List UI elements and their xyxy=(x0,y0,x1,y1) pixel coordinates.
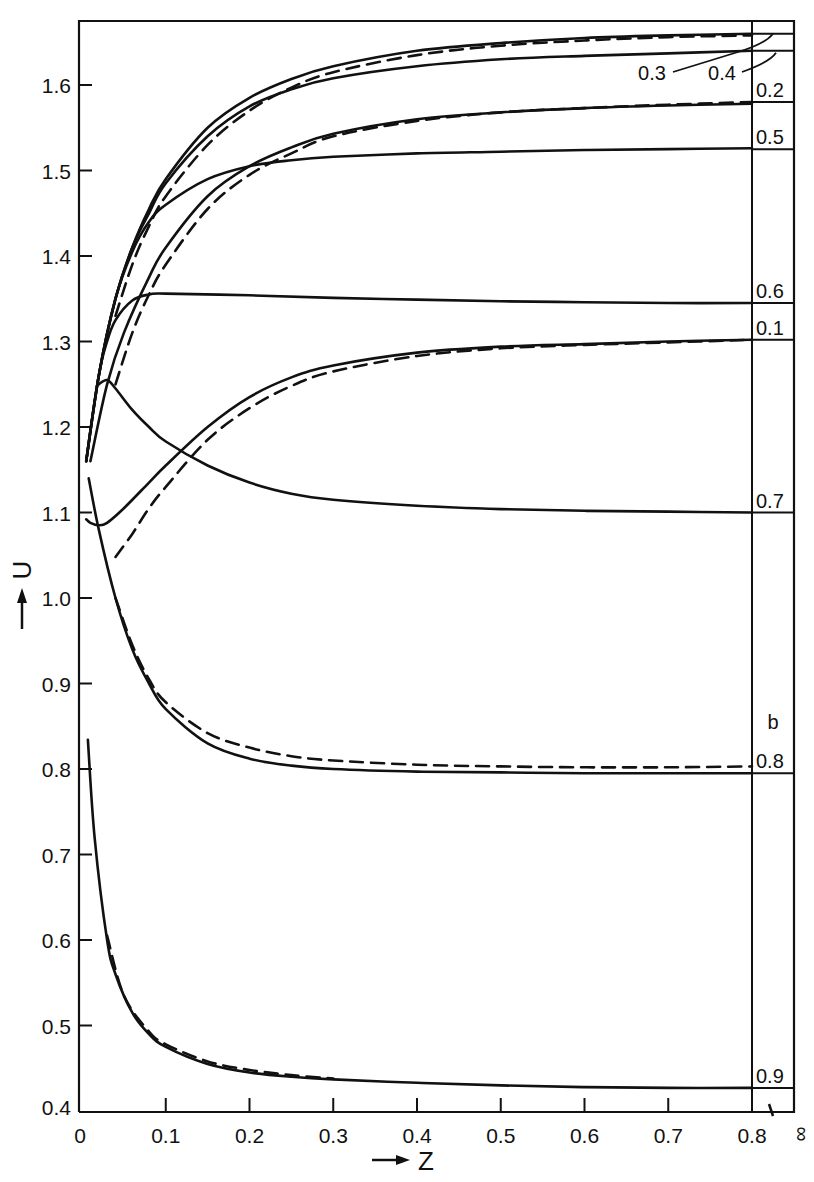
plot-frame xyxy=(79,21,794,1112)
curve-09-solid xyxy=(88,740,752,1088)
curve-02-solid xyxy=(90,104,752,461)
x-tick-label: 0.6 xyxy=(570,1124,599,1147)
axis-titles: ZU xyxy=(7,561,434,1176)
curve-01-dashed xyxy=(116,340,753,557)
y-tick-label: 0.6 xyxy=(42,929,71,952)
callout-leader xyxy=(742,53,776,72)
curve-01-solid xyxy=(86,340,752,526)
x-tick-label: 0 xyxy=(74,1124,86,1147)
y-tick-label: 1.0 xyxy=(42,587,71,610)
curve-07-solid xyxy=(99,380,752,513)
y-axis-title: U xyxy=(7,561,37,580)
y-tick-label: 1.5 xyxy=(42,160,71,183)
x-tick-infinity xyxy=(769,1104,773,1116)
y-tick-label: 0.8 xyxy=(42,758,71,781)
y-tick-label: 1.6 xyxy=(42,74,71,97)
curve-label-04: 0.4 xyxy=(708,62,736,84)
x-tick-label: 0.2 xyxy=(235,1124,264,1147)
x-axis-title: Z xyxy=(418,1146,434,1176)
curve-label-07: 0.7 xyxy=(756,490,784,512)
y-tick-label: 0.7 xyxy=(42,844,71,867)
curve-03-solid xyxy=(86,34,752,462)
curve-label-06: 0.6 xyxy=(756,280,784,302)
x-tick-label: 0.8 xyxy=(737,1124,766,1147)
curve-label-05: 0.5 xyxy=(756,126,784,148)
axis-ticks: 00.10.20.30.40.50.60.70.8∞0.40.50.60.70.… xyxy=(42,74,814,1147)
curve-06-solid xyxy=(86,294,752,462)
chart: 00.10.20.30.40.50.60.70.8∞0.40.50.60.70.… xyxy=(0,0,814,1182)
y-tick-label: 1.4 xyxy=(42,245,72,268)
data-curves xyxy=(86,34,752,1088)
curve-05-solid xyxy=(86,148,752,461)
x-tick-label: 0.4 xyxy=(402,1124,432,1147)
curve-08-solid xyxy=(89,478,752,773)
infinity-strip: 0.30.40.20.50.60.10.70.80.9b xyxy=(638,34,794,1088)
curve-label-02: 0.2 xyxy=(756,79,784,101)
curve-08-dashed xyxy=(116,598,753,767)
axes-box xyxy=(79,21,794,1112)
x-tick-label: 0.3 xyxy=(319,1124,348,1147)
x-tick-label: 0.5 xyxy=(486,1124,515,1147)
y-tick-label: 0.5 xyxy=(42,1015,71,1038)
x-tick-label: 0.7 xyxy=(654,1124,683,1147)
y-tick-label: 1.3 xyxy=(42,331,71,354)
curve-label-08: 0.8 xyxy=(756,750,784,772)
curve-label-01: 0.1 xyxy=(756,317,784,339)
curve-label-09: 0.9 xyxy=(756,1065,784,1087)
x-tick-label-infinity: ∞ xyxy=(791,1127,814,1142)
panel-label: b xyxy=(767,711,778,733)
y-arrow-head-icon xyxy=(17,588,27,603)
x-tick-label: 0.1 xyxy=(151,1124,180,1147)
curve-09-dashed xyxy=(107,936,333,1079)
y-tick-label: 0.9 xyxy=(42,673,71,696)
curve-04-solid xyxy=(86,51,752,461)
x-arrow-head-icon xyxy=(396,1155,410,1165)
y-tick-label: 0.4 xyxy=(42,1096,72,1119)
curve-label-03: 0.3 xyxy=(638,62,666,84)
y-tick-label: 1.1 xyxy=(42,502,71,525)
y-tick-label: 1.2 xyxy=(42,416,71,439)
